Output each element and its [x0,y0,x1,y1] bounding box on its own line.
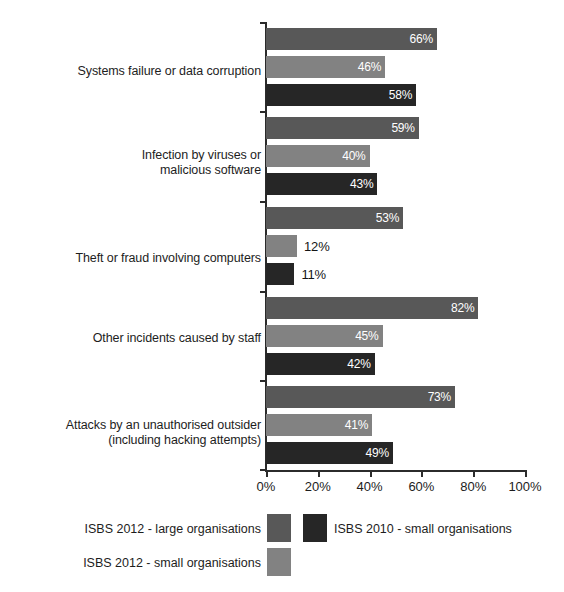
bar: 73% [266,386,455,408]
bar: 41% [266,414,372,436]
bar-value-label: 12% [304,239,329,254]
bar-value-label: 45% [355,329,378,343]
bar: 40% [266,145,370,167]
plot-area: 66%46%58%59%40%43%53%12%11%82%45%42%73%4… [266,22,525,470]
x-axis-tick [318,470,320,477]
x-axis-tick-label: 60% [408,479,434,494]
bar: 11% [266,263,294,285]
bar-value-label: 42% [347,357,370,371]
y-axis-tick [260,201,266,203]
category-label-4: Attacks by an unauthorised outsider (inc… [66,418,261,448]
x-axis-tick [266,470,268,477]
x-axis-tick [473,470,475,477]
bar: 12% [266,235,297,257]
bar-value-label: 53% [376,211,399,225]
bar-value-label: 49% [365,446,388,460]
bar: 42% [266,353,375,375]
legend-row-2: ISBS 2012 - small organisations [0,548,564,578]
category-label-2: Theft or fraud involving computers [75,251,261,266]
bar: 82% [266,297,478,319]
y-axis-tick [260,22,266,24]
x-axis-tick [421,470,423,477]
bar: 58% [266,84,416,106]
x-axis-tick-label: 40% [357,479,383,494]
bar: 49% [266,442,393,464]
legend-swatch-1 [303,514,327,542]
category-label-1: Infection by viruses or malicious softwa… [142,148,261,178]
bar-value-label: 82% [451,301,474,315]
category-label-3: Other incidents caused by staff [93,331,261,346]
bar: 59% [266,117,419,139]
y-axis-tick [260,111,266,113]
bar-chart: Systems failure or data corruption Infec… [0,0,564,592]
y-axis-tick [260,291,266,293]
x-axis-tick-label: 0% [257,479,276,494]
x-axis-tick [525,470,527,477]
bar: 45% [266,325,383,347]
bar-value-label: 58% [389,88,412,102]
chart-legend: ISBS 2012 - large organisations ISBS 201… [0,508,564,588]
legend-row-1: ISBS 2012 - large organisations ISBS 201… [0,514,564,544]
legend-swatch-0 [267,514,291,542]
legend-label-1: ISBS 2010 - small organisations [334,522,512,536]
category-label-0: Systems failure or data corruption [78,64,262,79]
x-axis-tick-label: 20% [305,479,331,494]
bar: 43% [266,173,377,195]
x-axis-tick [370,470,372,477]
bar: 53% [266,207,403,229]
x-axis-line [265,470,526,472]
legend-label-0: ISBS 2012 - large organisations [85,522,262,536]
legend-swatch-2 [267,548,291,576]
bar-value-label: 73% [428,390,451,404]
bar-value-label: 66% [410,32,433,46]
bar-value-label: 11% [301,267,325,282]
y-axis-tick [260,380,266,382]
x-axis-tick-label: 100% [508,479,541,494]
bar-value-label: 59% [391,121,414,135]
x-axis-tick-label: 80% [460,479,486,494]
bar-value-label: 41% [345,418,368,432]
bar-value-label: 46% [358,60,381,74]
bar-value-label: 43% [350,177,373,191]
bar-value-label: 40% [342,149,365,163]
bar: 46% [266,56,385,78]
legend-label-2: ISBS 2012 - small organisations [83,556,261,570]
bar: 66% [266,28,437,50]
